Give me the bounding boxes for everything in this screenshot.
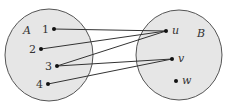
point-2 xyxy=(39,47,43,51)
point-3 xyxy=(55,64,59,68)
element-3-label: 3 xyxy=(45,60,52,73)
point-v xyxy=(170,57,174,61)
point-1 xyxy=(52,27,56,31)
point-u xyxy=(164,29,168,33)
set-a-circle xyxy=(5,9,93,101)
point-w xyxy=(174,79,178,83)
element-4-label: 4 xyxy=(36,78,43,91)
point-4 xyxy=(46,82,50,86)
set-a-label: A xyxy=(22,24,31,37)
element-v-label: v xyxy=(178,52,185,65)
element-2-label: 2 xyxy=(29,43,36,56)
element-w-label: w xyxy=(182,74,192,87)
set-mapping-diagram: A B 1 2 3 4 u v w xyxy=(0,0,228,107)
element-u-label: u xyxy=(172,24,179,37)
element-1-label: 1 xyxy=(42,23,49,36)
set-b-label: B xyxy=(196,27,205,40)
